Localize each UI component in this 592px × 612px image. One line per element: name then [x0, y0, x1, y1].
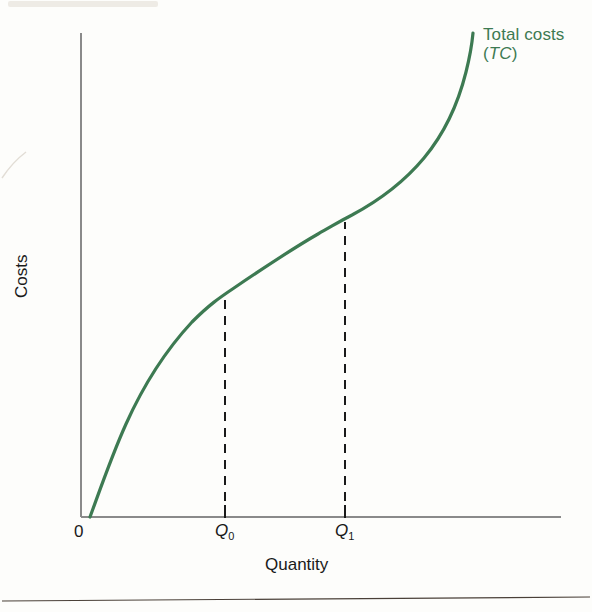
x-tick-label-q0: Q0 [215, 521, 234, 542]
x-tick-label-q1-symbol: Q [335, 521, 348, 540]
x-tick-label-q1-sub: 1 [348, 530, 354, 542]
chart-svg [0, 0, 592, 612]
scan-smudge-top [8, 1, 158, 7]
x-tick-label-q0-sub: 0 [228, 530, 234, 542]
x-axis-title: Quantity [265, 555, 328, 574]
curve-label-line2: (TC) [483, 44, 564, 63]
curve-label: Total costs (TC) [483, 25, 564, 63]
x-tick-label-q0-symbol: Q [215, 521, 228, 540]
total-cost-curve [90, 33, 473, 517]
footer-divider [2, 597, 590, 601]
scan-smudge-left [2, 152, 26, 178]
x-tick-label-origin: 0 [74, 522, 83, 542]
curve-label-symbol: TC [489, 44, 512, 63]
figure-container: Total costs (TC) Costs Quantity 0 Q0 Q1 [0, 0, 592, 612]
y-axis-title: Costs [12, 258, 31, 298]
curve-label-paren-close: ) [512, 44, 518, 63]
x-tick-label-q1: Q1 [335, 521, 354, 542]
curve-label-line1: Total costs [483, 25, 564, 44]
